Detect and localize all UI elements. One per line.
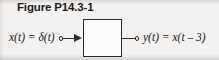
figure-container: Figure P14.3-1 x(t) = δ(t) y(t) = x(t – …: [0, 0, 219, 60]
output-terminal-icon: [135, 36, 139, 40]
figure-caption: Figure P14.3-1: [17, 1, 94, 13]
output-signal-label: y(t) = x(t – 3): [143, 31, 206, 43]
input-signal-label: x(t) = δ(t): [9, 31, 55, 43]
arrowhead-right-icon: [74, 34, 82, 42]
system-block: [83, 19, 122, 57]
